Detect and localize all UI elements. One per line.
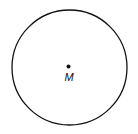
circle-diagram: M [0,0,138,134]
center-label: M [64,71,74,83]
center-point [67,65,71,69]
